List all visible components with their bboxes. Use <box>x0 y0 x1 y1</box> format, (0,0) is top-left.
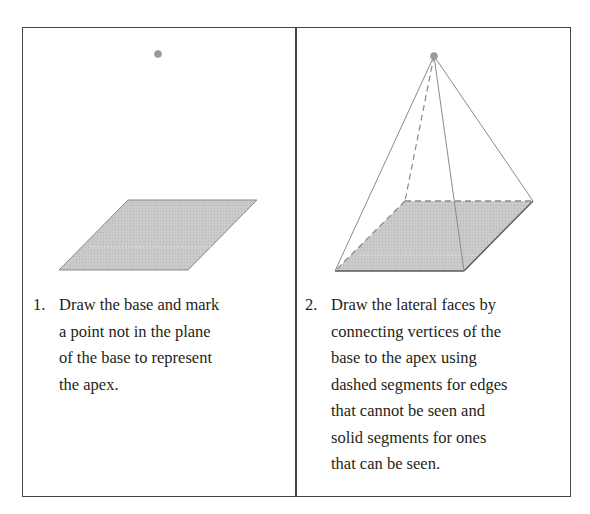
base-parallelogram <box>59 200 257 270</box>
step-1-number: 1. <box>33 292 45 319</box>
step-1-drawing <box>59 50 257 270</box>
hidden-edge-apex <box>405 56 434 201</box>
apex-point <box>430 52 438 60</box>
apex-point <box>154 50 162 58</box>
step-1-text: Draw the base and mark a point not in th… <box>59 292 289 398</box>
lateral-edge-back-right <box>434 56 533 201</box>
step-2-text: Draw the lateral faces by connecting ver… <box>331 292 571 478</box>
step-2-number: 2. <box>305 292 317 319</box>
step-2-drawing <box>335 52 533 271</box>
pyramid-base <box>335 201 533 271</box>
